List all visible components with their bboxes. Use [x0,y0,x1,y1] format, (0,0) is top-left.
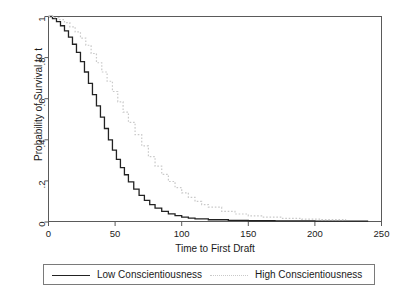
chart-canvas [0,0,400,299]
x-tick-label: 100 [162,228,202,239]
legend-line-dotted-icon [210,270,248,280]
legend-item-low-conscientiousness: Low Conscientiousness [52,265,202,284]
legend-line-solid-icon [52,270,90,280]
x-tick-label: 0 [29,228,69,239]
x-tick-label: 150 [228,228,268,239]
y-axis-title: Probability of Survival to t [33,5,44,205]
legend-label-high: High Conscientiousness [255,269,362,280]
x-tick-label: 250 [362,228,400,239]
series-line-high [49,17,346,220]
survival-curve-figure: 0.2.4.6.81 050100150200250 Probability o… [0,0,400,299]
series-layer [49,17,369,222]
tick-marks [45,17,382,227]
x-tick-label: 50 [95,228,135,239]
legend: Low Conscientiousness High Conscientious… [43,264,375,285]
legend-label-low: Low Conscientiousness [97,269,202,280]
legend-item-high-conscientiousness: High Conscientiousness [210,265,362,284]
series-line-low [49,17,369,222]
x-axis-title: Time to First Draft [48,243,382,254]
x-tick-label: 200 [295,228,335,239]
